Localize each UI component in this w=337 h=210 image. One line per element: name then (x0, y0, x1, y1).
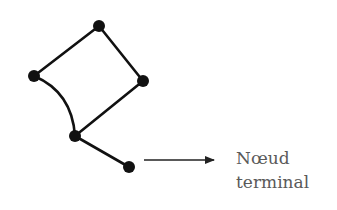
edge-top-right (99, 26, 143, 81)
label-line-2: terminal (236, 170, 309, 194)
node-right (137, 75, 149, 87)
nodes (28, 20, 149, 173)
edge-right-middle (75, 81, 143, 136)
edges (34, 26, 143, 167)
edge-middle-terminal (75, 136, 129, 167)
label-line-1: Nœud (236, 146, 309, 170)
node-middle (69, 130, 81, 142)
terminal-node-label: Nœud terminal (236, 146, 309, 194)
node-terminal (123, 161, 135, 173)
edge-left-top (34, 26, 99, 76)
node-top (93, 20, 105, 32)
node-left (28, 70, 40, 82)
edge-left-middle-curved (34, 76, 75, 136)
